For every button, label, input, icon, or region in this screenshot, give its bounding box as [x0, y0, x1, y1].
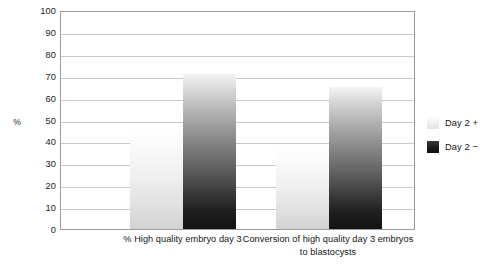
bars-layer — [61, 12, 414, 229]
y-tick-label: 70 — [45, 72, 56, 82]
y-tick-label: 30 — [45, 159, 56, 169]
bar — [276, 144, 329, 229]
x-axis-label: Conversion of high quality day 3 embryos… — [228, 233, 428, 258]
x-axis-category-labels: % High quality embryo day 3Conversion of… — [60, 233, 415, 267]
legend-label: Day 2 − — [445, 142, 478, 152]
plot-area — [60, 11, 415, 230]
bar — [329, 87, 382, 229]
y-tick-label: 10 — [45, 203, 56, 213]
y-axis-title: % — [6, 117, 28, 127]
legend-label: Day 2 + — [445, 118, 478, 128]
legend-item[interactable]: Day 2 − — [427, 137, 493, 156]
y-axis-tick-labels: 1009080706050403020100 — [26, 8, 56, 230]
y-tick-label: 40 — [45, 137, 56, 147]
y-tick-label: 90 — [45, 28, 56, 38]
chart-legend: Day 2 +Day 2 − — [427, 113, 493, 161]
bar — [130, 124, 183, 229]
legend-swatch-light — [427, 117, 439, 129]
y-tick-label: 50 — [45, 116, 56, 126]
y-tick-label: 100 — [40, 6, 56, 16]
y-tick-label: 60 — [45, 94, 56, 104]
legend-item[interactable]: Day 2 + — [427, 113, 493, 132]
y-tick-label: 80 — [45, 50, 56, 60]
bar — [183, 74, 236, 229]
legend-swatch-dark — [427, 141, 439, 153]
y-tick-label: 20 — [45, 181, 56, 191]
bar-chart: % 1009080706050403020100 % High quality … — [0, 0, 497, 269]
y-tick-label: 0 — [51, 225, 56, 235]
